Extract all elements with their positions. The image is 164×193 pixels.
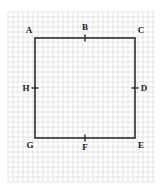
square-outline: [35, 38, 135, 138]
label-e: E: [138, 140, 144, 150]
label-c: C: [138, 25, 145, 35]
label-g: G: [26, 140, 33, 150]
label-a: A: [26, 25, 33, 35]
label-b: B: [82, 22, 88, 32]
midpoint-ticks: [32, 35, 139, 142]
square-grid-diagram: A B C D E F G H: [0, 0, 164, 193]
label-d: D: [141, 83, 148, 93]
label-f: F: [82, 142, 88, 152]
label-h: H: [22, 83, 29, 93]
